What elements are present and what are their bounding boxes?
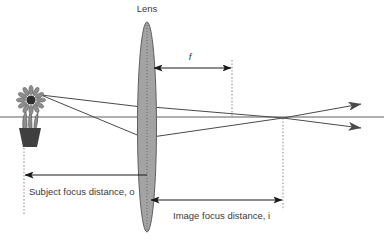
refracted-ray-upper: [152, 104, 361, 137]
object-flower-in-pot: [16, 85, 45, 147]
optics-diagram: Lens f Subject focus distance, o Image f…: [0, 0, 384, 243]
leaf-left: [23, 112, 27, 129]
flower-pot: [19, 128, 41, 147]
image-distance-label: Image focus distance, i: [173, 210, 270, 221]
leaf-right: [34, 113, 38, 129]
subject-distance-label: Subject focus distance, o: [29, 186, 135, 197]
focal-length-label: f: [189, 51, 193, 62]
refracted-ray-lower: [152, 107, 361, 128]
lens-ray-diagram-canvas: Lens f Subject focus distance, o Image f…: [0, 0, 384, 243]
lens-label: Lens: [137, 3, 158, 14]
flower-center: [26, 95, 35, 104]
